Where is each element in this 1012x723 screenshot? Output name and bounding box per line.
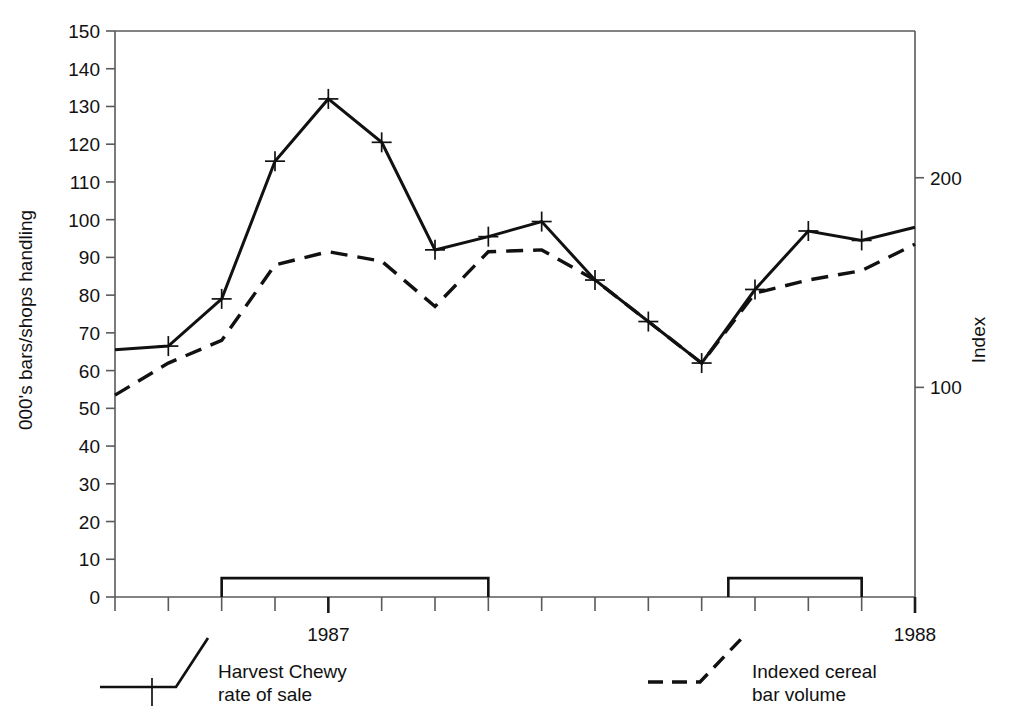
y-axis-title: 000's bars/shops handling <box>15 210 36 430</box>
y-tick-label: 150 <box>68 21 100 42</box>
y2-axis-title: Index <box>968 316 989 363</box>
x-axis-ticks <box>115 597 915 613</box>
y-tick-label: 70 <box>79 323 100 344</box>
y-tick-label: 10 <box>79 549 100 570</box>
period-annotation-boxes <box>222 578 862 597</box>
y-tick-label: 30 <box>79 474 100 495</box>
series-1 <box>115 89 915 373</box>
promotion-period-box-1 <box>222 578 489 597</box>
legend-item-indexed-cereal[interactable]: Indexed cereal bar volume <box>648 638 877 705</box>
right-axis-ticks: 100200 <box>915 168 962 399</box>
left-axis-ticks: 0102030405060708090100110120130140150 <box>68 21 115 608</box>
y-tick-label: 80 <box>79 285 100 306</box>
y-tick-label: 130 <box>68 96 100 117</box>
legend-label-line2: bar volume <box>752 684 846 705</box>
y2-tick-label: 200 <box>930 168 962 189</box>
y-tick-label: 0 <box>89 587 100 608</box>
y-tick-label: 120 <box>68 134 100 155</box>
legend-plus-marker-icon <box>138 678 166 706</box>
legend: Harvest Chewy rate of sale Indexed cerea… <box>100 638 877 706</box>
y2-tick-label: 100 <box>930 377 962 398</box>
data-point-marker <box>425 240 445 260</box>
y-tick-label: 100 <box>68 210 100 231</box>
legend-dashed-line-icon <box>648 638 742 682</box>
legend-label-line1: Indexed cereal <box>752 661 877 682</box>
y-tick-label: 40 <box>79 436 100 457</box>
x-axis-tick-labels: 19871988 <box>307 624 936 645</box>
chart-figure: 0102030405060708090100110120130140150 10… <box>0 0 1012 723</box>
legend-solid-line-icon <box>100 638 208 687</box>
data-series-layer <box>115 89 915 395</box>
y-tick-label: 140 <box>68 59 100 80</box>
axes-frame <box>115 31 915 597</box>
legend-label-line1: Harvest Chewy <box>218 661 347 682</box>
x-tick-label: 1987 <box>307 624 349 645</box>
line-chart-svg: 0102030405060708090100110120130140150 10… <box>0 0 1012 723</box>
y-tick-label: 50 <box>79 398 100 419</box>
x-tick-label: 1988 <box>894 624 936 645</box>
promotion-period-box-2 <box>728 578 861 597</box>
y-tick-label: 110 <box>70 172 100 193</box>
legend-label-line2: rate of sale <box>218 684 312 705</box>
y-tick-label: 90 <box>79 247 100 268</box>
legend-item-harvest-chewy[interactable]: Harvest Chewy rate of sale <box>100 638 347 706</box>
data-point-marker <box>478 227 498 247</box>
y-tick-label: 20 <box>79 512 100 533</box>
y-tick-label: 60 <box>79 361 100 382</box>
data-point-marker <box>852 230 872 250</box>
